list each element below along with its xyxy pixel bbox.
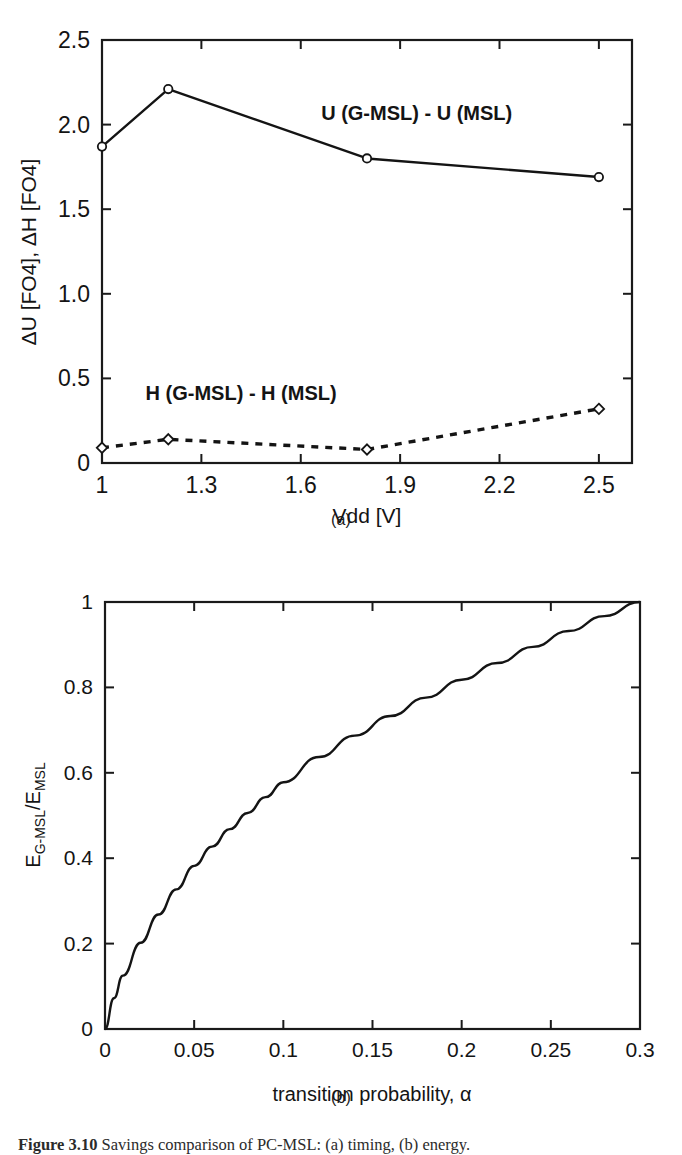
x-axis-ticks-b: 00.050.10.150.20.250.3 [99,602,654,1061]
series-label-h: H (G-MSL) - H (MSL) [146,382,337,404]
y-axis-ticks-b: 00.20.40.60.81 [64,590,640,1040]
chart-panel-b: 00.20.40.60.81 00.050.10.150.20.250.3 tr… [0,545,682,1125]
figure-caption: Figure 3.10 Savings comparison of PC-MSL… [18,1134,664,1155]
y-tick-label: 2.5 [58,27,90,53]
y-tick-label: 0.8 [64,675,93,698]
x-tick-label: 0.2 [447,1038,476,1061]
series-label-u: U (G-MSL) - U (MSL) [321,102,512,124]
y-axis-title-b: EG-MSL/EMSL [22,762,48,868]
y-tick-label: 0.5 [58,365,90,391]
plot-frame-b [105,602,640,1029]
data-series-group-b [105,602,640,1029]
y-tick-label: 0.6 [64,761,93,784]
x-tick-label: 0.1 [269,1038,298,1061]
x-tick-label: 0.25 [530,1038,571,1061]
data-point-marker [594,404,604,414]
data-point-marker [363,154,371,162]
y-tick-label: 1.5 [58,196,90,222]
data-point-marker [97,443,107,453]
y-tick-label: 0 [77,450,90,476]
y-tick-label: 0 [81,1017,93,1040]
chart-a-canvas: 00.51.01.52.02.5 11.31.61.92.22.5 U (G-M… [0,0,682,545]
x-tick-label: 2.2 [484,472,516,498]
y-axis-title-a: ΔU [FO4], ΔH [FO4] [17,159,40,346]
figure-page: 00.51.01.52.02.5 11.31.61.92.22.5 U (G-M… [0,0,682,1155]
y-tick-label: 2.0 [58,112,90,138]
data-point-marker [362,444,372,454]
y-tick-label: 1.0 [58,281,90,307]
figure-caption-label: Figure 3.10 [18,1135,97,1154]
series-line-0 [105,602,640,1029]
figure-caption-text: Savings comparison of PC-MSL: (a) timing… [102,1135,470,1154]
subcaption-b: (b) [0,1089,682,1107]
series-line-1 [102,409,599,450]
data-point-marker [98,142,106,150]
x-tick-label: 2.5 [583,472,615,498]
y-tick-label: 0.2 [64,932,93,955]
y-axis-ticks-a: 00.51.01.52.02.5 [58,27,632,476]
data-point-marker [163,434,173,444]
data-point-marker [164,85,172,93]
x-tick-label: 1.6 [285,472,317,498]
x-tick-label: 1.3 [185,472,217,498]
x-tick-label: 1 [96,472,109,498]
chart-panel-a: 00.51.01.52.02.5 11.31.61.92.22.5 U (G-M… [0,0,682,545]
x-tick-label: 0.3 [625,1038,654,1061]
chart-b-canvas: 00.20.40.60.81 00.050.10.150.20.250.3 tr… [0,545,682,1125]
x-tick-label: 0.05 [174,1038,215,1061]
subcaption-a: (a) [0,511,682,529]
data-point-marker [595,173,603,181]
y-tick-label: 0.4 [64,846,94,869]
x-tick-label: 0 [99,1038,111,1061]
x-tick-label: 0.15 [352,1038,393,1061]
y-tick-label: 1 [81,590,93,613]
x-tick-label: 1.9 [384,472,416,498]
